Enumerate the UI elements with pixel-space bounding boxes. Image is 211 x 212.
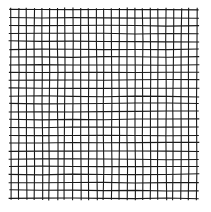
horizontal-grid-line [9,65,199,66]
horizontal-grid-line [9,49,198,50]
vertical-grid-line [158,8,159,199]
vertical-grid-line [88,8,89,200]
vertical-grid-line [188,8,189,200]
hand-drawn-grid [0,0,211,212]
vertical-grid-line [150,8,151,200]
horizontal-grid-line [9,151,199,152]
vertical-grid-line [142,8,143,200]
background [0,0,211,212]
horizontal-grid-line [9,198,199,199]
vertical-grid-line [135,8,136,200]
horizontal-grid-line [9,9,198,10]
vertical-grid-line [127,8,128,201]
horizontal-grid-line [9,17,199,18]
horizontal-grid-line [9,88,200,89]
horizontal-grid-line [9,182,199,183]
